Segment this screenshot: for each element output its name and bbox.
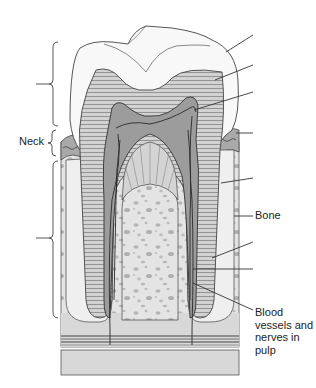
neck-bracket (48, 130, 56, 156)
label-neck: Neck (19, 135, 44, 148)
crown-bracket (49, 42, 58, 126)
root-bracket (49, 161, 58, 318)
label-bone: Bone (255, 209, 281, 222)
leader-enamel (226, 35, 253, 52)
region-brackets (36, 42, 58, 318)
label-blood-vessels-nerves: Blood vessels and nerves in pulp (255, 306, 315, 356)
